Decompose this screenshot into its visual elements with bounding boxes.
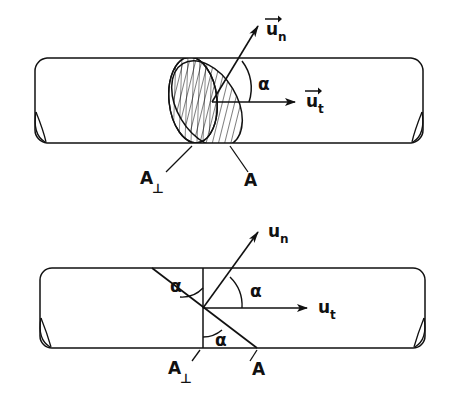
un-label-upper: u xyxy=(266,19,278,39)
alpha-label-lower-lower: α xyxy=(215,330,227,350)
leader-line-a-upper xyxy=(230,146,248,172)
technical-diagram-svg: α u n u t A ⊥ A xyxy=(0,0,456,394)
upper-panel: α u n u t A ⊥ A xyxy=(35,16,423,196)
un-subscript-lower: n xyxy=(280,232,289,246)
leader-line-aperp-upper xyxy=(166,146,192,172)
ut-label-upper: u xyxy=(306,91,318,111)
lower-panel: α α α u n u t A ⊥ A xyxy=(40,221,425,386)
alpha-label-upper-right-lower: α xyxy=(250,281,262,301)
leader-tick-aperp-lower xyxy=(192,350,200,361)
ut-label-lower: u xyxy=(318,297,330,317)
aperp-label-group-lower: A ⊥ xyxy=(168,358,192,386)
un-label-group-lower: u n xyxy=(268,221,289,246)
alpha-label-upper-left-lower: α xyxy=(170,276,182,296)
aperp-subscript-upper: ⊥ xyxy=(152,181,164,196)
un-label-lower: u xyxy=(268,221,280,241)
aperp-label-group-upper: A ⊥ xyxy=(140,168,164,196)
aperp-subscript-lower: ⊥ xyxy=(180,371,192,386)
un-overbar-arrowhead-upper xyxy=(278,16,282,23)
a-label-lower: A xyxy=(252,359,266,379)
alpha-label-upper: α xyxy=(258,74,270,94)
figure-root: α u n u t A ⊥ A xyxy=(0,0,456,394)
ut-subscript-upper: t xyxy=(318,102,324,116)
a-label-upper: A xyxy=(244,170,258,190)
ut-subscript-lower: t xyxy=(330,308,336,322)
un-label-group-upper: u n xyxy=(265,16,287,44)
un-subscript-upper: n xyxy=(278,30,287,44)
